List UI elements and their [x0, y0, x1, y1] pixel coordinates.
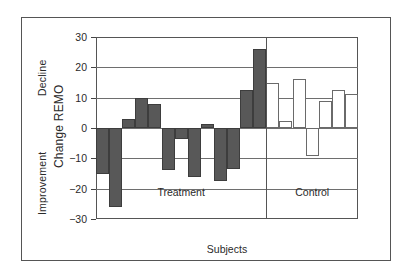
- y-tick--20: [91, 189, 96, 190]
- plot-area: 3020100−10−20−30 TreatmentControl: [96, 37, 358, 219]
- bar-control-7: [345, 94, 358, 128]
- y-tick-label--20: −20: [69, 183, 87, 195]
- bar-control-4: [306, 128, 319, 156]
- gridline-20: [96, 67, 358, 68]
- group-label-control: Control: [295, 186, 329, 198]
- bar-control-5: [319, 101, 332, 128]
- y-tick-20: [91, 67, 96, 68]
- y-tick-label--30: −30: [69, 213, 87, 225]
- x-axis-title: Subjects: [96, 243, 358, 255]
- y-axis-title: Change REMO: [52, 84, 66, 168]
- axis-direction-label-decline: Decline: [36, 60, 48, 96]
- group-label-treatment: Treatment: [157, 186, 204, 198]
- bar-treatment-3: [122, 119, 135, 128]
- bar-treatment-8: [188, 128, 201, 177]
- bar-treatment-2: [109, 128, 122, 207]
- bar-treatment-9: [201, 124, 214, 128]
- figure-container: Decline Improvement Change REMO 3020100−…: [0, 0, 414, 277]
- bar-treatment-11: [227, 128, 240, 169]
- bar-control-1: [266, 83, 279, 129]
- y-tick--30: [91, 219, 96, 220]
- bar-treatment-4: [135, 98, 148, 128]
- y-tick-label-30: 30: [75, 31, 87, 43]
- bar-control-3: [293, 79, 306, 128]
- y-tick-10: [91, 98, 96, 99]
- y-tick-label-0: 0: [81, 122, 87, 134]
- bar-treatment-1: [96, 128, 109, 174]
- y-tick-label--10: −10: [69, 152, 87, 164]
- bar-treatment-13: [253, 49, 266, 128]
- bar-treatment-5: [148, 104, 161, 128]
- bar-treatment-12: [240, 90, 253, 128]
- y-tick-label-20: 20: [75, 61, 87, 73]
- axis-direction-label-improvement: Improvement: [36, 152, 48, 215]
- group-divider-line: [266, 37, 267, 219]
- bar-treatment-10: [214, 128, 227, 181]
- bar-treatment-6: [162, 128, 175, 170]
- y-tick-label-10: 10: [75, 92, 87, 104]
- bar-control-2: [279, 121, 292, 128]
- bar-control-6: [332, 90, 345, 128]
- y-tick-30: [91, 37, 96, 38]
- bar-treatment-7: [175, 128, 188, 139]
